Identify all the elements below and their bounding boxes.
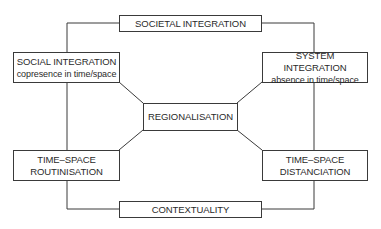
node-label-line1: TIME–SPACE — [286, 154, 344, 166]
edge-distanciation-contextuality — [261, 180, 314, 209]
node-label: CONTEXTUALITY — [152, 204, 229, 216]
edge-regionalisation-distanciation — [237, 130, 262, 150]
edge-societal-social — [67, 23, 119, 52]
node-time-space-routinisation: TIME–SPACE ROUTINISATION — [13, 150, 120, 181]
node-time-space-distanciation: TIME–SPACE DISTANCIATION — [262, 150, 368, 181]
node-label: SYSTEM INTEGRATION — [263, 50, 367, 74]
node-regionalisation: REGIONALISATION — [143, 103, 238, 131]
node-label-line2: DISTANCIATION — [280, 166, 351, 178]
edge-routinisation-contextuality — [67, 180, 119, 209]
node-sublabel: absence in time/space — [271, 74, 358, 86]
node-system-integration: SYSTEM INTEGRATION absence in time/space — [262, 52, 368, 83]
node-label: SOCIAL INTEGRATION — [17, 56, 117, 68]
edge-regionalisation-system — [237, 82, 262, 103]
edge-societal-system — [261, 23, 314, 52]
node-contextuality: CONTEXTUALITY — [119, 201, 262, 218]
node-label-line2: ROUTINISATION — [30, 166, 102, 178]
node-label: REGIONALISATION — [148, 111, 233, 123]
node-label: SOCIETAL INTEGRATION — [135, 18, 246, 30]
node-sublabel: copresence in time/space — [17, 68, 117, 80]
edge-regionalisation-routinisation — [119, 130, 143, 150]
node-label-line1: TIME–SPACE — [37, 154, 95, 166]
edge-regionalisation-social — [119, 82, 143, 103]
node-social-integration: SOCIAL INTEGRATION copresence in time/sp… — [13, 52, 120, 83]
node-societal-integration: SOCIETAL INTEGRATION — [119, 15, 262, 32]
